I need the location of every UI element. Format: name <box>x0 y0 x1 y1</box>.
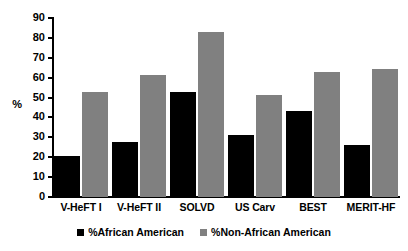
bar-non-african-american <box>140 75 166 197</box>
x-axis-category-label: US Carv <box>228 201 282 213</box>
bar-non-african-american <box>256 95 282 197</box>
plot-area: V-HeFT IV-HeFT IISOLVDUS CarvBESTMERIT-H… <box>52 18 400 197</box>
bar-group: US Carv <box>228 18 282 197</box>
bar-non-african-american <box>314 72 340 197</box>
bar-chart-figure: % 0102030405060708090 V-HeFT IV-HeFT IIS… <box>0 0 408 251</box>
x-axis-category-label: SOLVD <box>170 201 224 213</box>
chart-legend: %African American%Non-African American <box>0 226 408 238</box>
bar-non-african-american <box>372 69 398 197</box>
bar-group: MERIT-HF <box>344 18 398 197</box>
y-axis-tick-label: 80 <box>33 31 45 43</box>
bar-african-american <box>228 135 254 197</box>
legend-item: %African American <box>77 226 184 238</box>
bar-african-american <box>112 142 138 197</box>
legend-swatch-non-african-american <box>200 229 207 236</box>
x-axis-category-label: V-HeFT I <box>54 201 108 213</box>
bar-non-african-american <box>82 92 108 197</box>
x-axis-category-label: V-HeFT II <box>112 201 166 213</box>
y-axis-tick-label: 0 <box>39 190 45 202</box>
bar-african-american <box>344 145 370 198</box>
legend-item-label: %Non-African American <box>211 226 331 238</box>
bar-african-american <box>286 111 312 197</box>
y-axis-tick-label: 90 <box>33 11 45 23</box>
y-axis-tick-label: 20 <box>33 150 45 162</box>
bar-group: V-HeFT II <box>112 18 166 197</box>
x-axis-category-label: MERIT-HF <box>344 201 398 213</box>
y-axis-tick-label: 40 <box>33 110 45 122</box>
legend-item: %Non-African American <box>200 226 331 238</box>
bar-group: BEST <box>286 18 340 197</box>
y-axis-tick-label: 70 <box>33 51 45 63</box>
y-axis-tick-label: 10 <box>33 170 45 182</box>
y-axis-title: % <box>8 98 26 110</box>
bar-group: V-HeFT I <box>54 18 108 197</box>
legend-item-label: %African American <box>88 226 184 238</box>
x-axis-category-label: BEST <box>286 201 340 213</box>
y-axis-tick-label: 30 <box>33 130 45 142</box>
legend-swatch-african-american <box>77 229 84 236</box>
bar-african-american <box>170 92 196 197</box>
bar-african-american <box>54 156 80 197</box>
bar-group: SOLVD <box>170 18 224 197</box>
bar-non-african-american <box>198 32 224 197</box>
y-axis-tick-label: 60 <box>33 71 45 83</box>
y-axis-tick-label: 50 <box>33 91 45 103</box>
